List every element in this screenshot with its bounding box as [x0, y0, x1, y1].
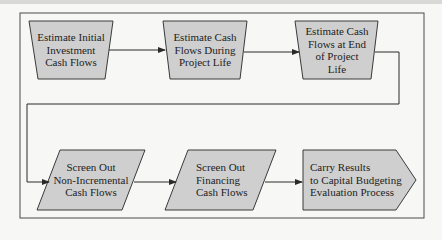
label-line: Investment	[37, 44, 105, 57]
label-line: Estimate Initial	[37, 31, 105, 44]
label-line: Screen Out	[196, 161, 248, 174]
label-line: Cash Flows	[37, 56, 105, 69]
label-line: Estimate Cash	[173, 31, 236, 44]
node-label-n2: Estimate Cash Flows During Project Life	[165, 21, 245, 79]
label-line: to Capital Budgeting	[310, 174, 402, 187]
label-line: Estimate Cash	[305, 25, 368, 38]
node-label-n3: Estimate Cash Flows at End of Project Li…	[297, 21, 377, 79]
label-line: Non-Incremental	[53, 174, 128, 187]
label-line: of Project	[305, 50, 368, 63]
node-label-n1: Estimate Initial Investment Cash Flows	[33, 21, 109, 79]
label-line: Cash Flows	[196, 186, 248, 199]
label-line: Screen Out	[53, 161, 128, 174]
node-label-n4: Screen Out Non-Incremental Cash Flows	[47, 150, 135, 210]
label-line: Carry Results	[310, 161, 402, 174]
label-line: Flows at End	[305, 38, 368, 51]
label-line: Evaluation Process	[310, 186, 402, 199]
label-line: Flows During	[173, 44, 236, 57]
node-label-n6: Carry Results to Capital Budgeting Evalu…	[310, 150, 410, 210]
label-line: Cash Flows	[53, 186, 128, 199]
label-line: Project Life	[173, 56, 236, 69]
label-line: Financing	[196, 174, 248, 187]
node-label-n5: Screen Out Financing Cash Flows	[196, 150, 266, 210]
label-line: Life	[305, 63, 368, 76]
